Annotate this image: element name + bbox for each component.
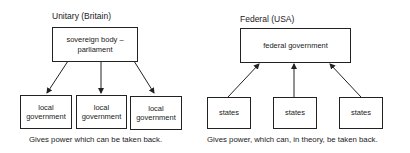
local-government-line2: government xyxy=(136,113,176,123)
federal-title: Federal (USA) xyxy=(240,14,294,24)
federal-caption: Gives power, which can, in theory, be ta… xyxy=(207,135,378,144)
local-government-box-2: local government xyxy=(76,95,127,129)
arrow-up-1 xyxy=(228,64,259,97)
states-box-1: states xyxy=(207,97,251,129)
local-government-line2: government xyxy=(82,112,122,122)
states-label: states xyxy=(351,108,371,118)
sovereign-body-line2: parliament xyxy=(77,45,112,55)
arrow-down-1 xyxy=(47,61,68,93)
local-government-box-1: local government xyxy=(20,95,72,129)
sovereign-body-line1: sovereign body – xyxy=(66,35,123,45)
states-box-2: states xyxy=(273,97,317,129)
sovereign-body-box: sovereign body – parliament xyxy=(52,27,138,62)
local-government-box-3: local government xyxy=(130,96,182,130)
states-label: states xyxy=(285,108,305,118)
arrow-down-3 xyxy=(134,61,154,93)
unitary-caption: Gives power which can be taken back. xyxy=(29,135,162,144)
arrow-up-3 xyxy=(330,64,361,97)
federal-government-label: federal government xyxy=(263,41,328,51)
arrows-layer xyxy=(0,0,410,153)
federal-government-box: federal government xyxy=(240,28,351,63)
states-label: states xyxy=(219,108,239,118)
local-government-line1: local xyxy=(148,104,163,114)
local-government-line1: local xyxy=(38,103,53,113)
unitary-title: Unitary (Britain) xyxy=(52,11,111,21)
local-government-line2: government xyxy=(26,112,66,122)
states-box-3: states xyxy=(339,97,383,129)
local-government-line1: local xyxy=(94,103,109,113)
